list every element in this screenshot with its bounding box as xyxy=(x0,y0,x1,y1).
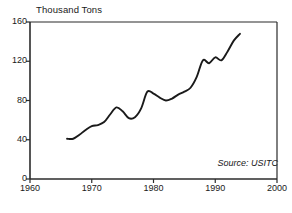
y-tick-label: 120 xyxy=(1,56,27,65)
chart-container: Thousand Tons 04080120160 19601970198019… xyxy=(0,0,292,213)
series-line xyxy=(67,34,240,139)
x-tick-label: 2000 xyxy=(257,184,292,193)
y-tick-label: 80 xyxy=(1,96,27,105)
x-tick-label: 1960 xyxy=(10,184,50,193)
plot-frame xyxy=(30,22,277,179)
x-tick-label: 1990 xyxy=(195,184,235,193)
y-tick-label: 0 xyxy=(1,174,27,183)
x-tick-label: 1970 xyxy=(72,184,112,193)
x-tick-label: 1980 xyxy=(134,184,174,193)
y-tick-label: 160 xyxy=(1,17,27,26)
data-series-group xyxy=(67,34,240,139)
source-annotation: Source: USITC xyxy=(217,158,278,168)
y-tick-label: 40 xyxy=(1,135,27,144)
chart-plot-area xyxy=(0,0,292,213)
